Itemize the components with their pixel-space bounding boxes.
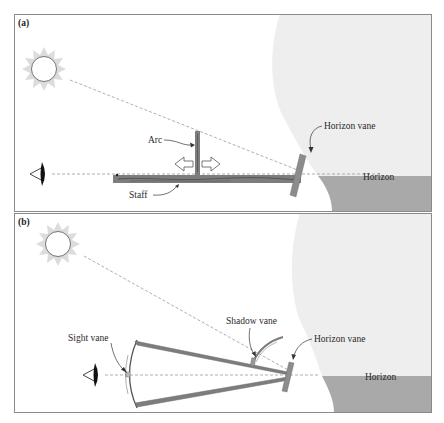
panel-a-label: (a): [18, 18, 29, 29]
label-horizon: Horizon: [363, 172, 394, 182]
panel-a: Arc Staff Horizon vane Horizon: [14, 14, 431, 211]
label-arc: Arc: [148, 135, 162, 145]
panel-b: Sight vane Shadow vane Horizon vane Hori…: [14, 213, 431, 412]
label-shadow-vane: Shadow vane: [226, 316, 277, 326]
diagram-canvas: Arc Staff Horizon vane Horizon (a): [0, 0, 444, 423]
label-horizon: Horizon: [365, 372, 396, 382]
label-sight-vane: Sight vane: [68, 333, 108, 343]
label-horizon-vane: Horizon vane: [324, 121, 375, 131]
panel-b-label: (b): [18, 217, 30, 228]
label-horizon-vane: Horizon vane: [314, 334, 365, 344]
label-staff: Staff: [129, 190, 148, 200]
